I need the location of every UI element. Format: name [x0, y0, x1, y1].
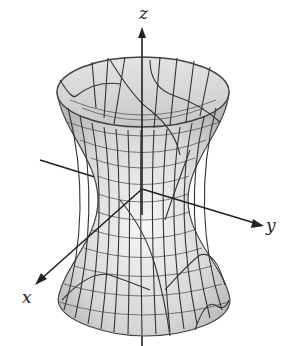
y-axis-arrowhead: [251, 219, 264, 228]
x-axis-label: x: [22, 287, 32, 307]
z-axis-arrowhead: [138, 27, 146, 38]
z-axis-label: z: [138, 3, 149, 23]
hyperboloid-figure: x y z: [0, 0, 285, 346]
hyperboloid-plot: x y z: [0, 0, 285, 346]
top-opening: [57, 57, 229, 127]
y-axis-label: y: [265, 215, 276, 235]
